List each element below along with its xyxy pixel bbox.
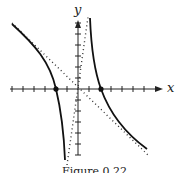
curve-left-branch	[12, 24, 65, 160]
curve-right-branch	[90, 18, 147, 149]
x-intercept-right	[98, 86, 103, 91]
y-arrow-icon	[75, 20, 81, 28]
y-axis-label: y	[74, 2, 81, 17]
graph	[0, 0, 183, 173]
x-axis-label: x	[167, 80, 174, 95]
x-intercept-left	[53, 86, 58, 91]
figure-caption: Figure 0.22	[62, 165, 127, 173]
x-arrow-icon	[155, 86, 163, 92]
